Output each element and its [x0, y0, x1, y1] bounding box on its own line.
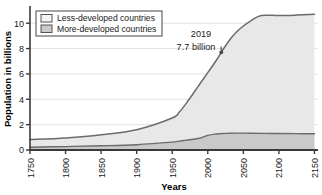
- x-axis-title: Years: [161, 181, 186, 192]
- chart-canvas: 0246810 17501800185019001950200020502100…: [0, 0, 322, 195]
- y-axis-tick-labels: 0246810: [14, 19, 24, 156]
- y-tick-label: 0: [19, 145, 24, 155]
- legend-swatch-less-developed: [41, 15, 52, 23]
- legend-label-less-developed: Less-developed countries: [57, 13, 155, 23]
- y-tick-label: 8: [19, 44, 24, 54]
- annotation-value-label: 7.7 billion: [177, 42, 216, 52]
- x-tick-label: 2000: [203, 158, 213, 178]
- y-tick-label: 10: [14, 19, 24, 29]
- legend: Less-developed countries More-developed …: [36, 11, 162, 36]
- x-tick-label: 1800: [61, 158, 71, 178]
- x-tick-label: 2150: [310, 158, 320, 178]
- legend-item-more-developed[interactable]: More-developed countries: [41, 24, 156, 34]
- legend-item-less-developed[interactable]: Less-developed countries: [41, 13, 155, 23]
- x-tick-label: 1900: [132, 158, 142, 178]
- x-axis-tick-labels: 175018001850190019502000205021002150: [26, 158, 320, 178]
- legend-swatch-more-developed: [41, 25, 52, 33]
- annotation-year-label: 2019: [191, 29, 211, 39]
- annotation-data-point: [219, 50, 223, 54]
- y-axis-title: Population in billions: [2, 31, 13, 127]
- y-tick-label: 2: [19, 120, 24, 130]
- legend-label-more-developed: More-developed countries: [57, 24, 156, 34]
- x-tick-label: 1850: [97, 158, 107, 178]
- x-tick-label: 1750: [26, 158, 36, 178]
- x-tick-label: 2050: [239, 158, 249, 178]
- y-tick-label: 6: [19, 69, 24, 79]
- x-tick-label: 1950: [168, 158, 178, 178]
- population-area-chart: 0246810 17501800185019001950200020502100…: [0, 0, 322, 195]
- x-tick-label: 2100: [274, 158, 284, 178]
- y-tick-label: 4: [19, 95, 24, 105]
